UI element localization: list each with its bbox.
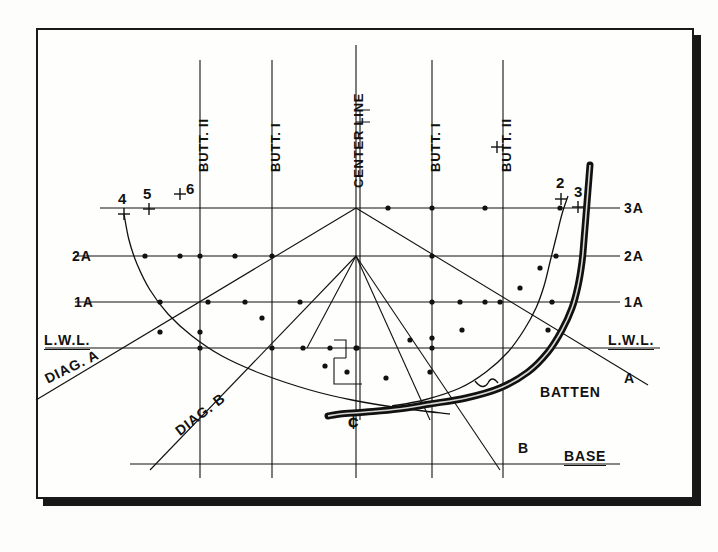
offset-point (459, 327, 464, 332)
waterline-label-2a-right: 2A (624, 248, 644, 264)
diagonal-b-end-label: B (518, 440, 529, 456)
waterline-label-lwl-left: L.W.L. (44, 332, 90, 350)
station-number-3: 3 (574, 183, 583, 200)
butt2-left-label: BUTT. II (196, 118, 211, 172)
station-curve (124, 214, 450, 414)
batten-strip (328, 165, 590, 416)
diagonal-DIAG. C right (356, 256, 430, 420)
offset-point (457, 299, 462, 304)
offset-point (327, 345, 332, 350)
station-number-2: 2 (556, 174, 565, 191)
offset-point (259, 315, 264, 320)
offset-point (482, 205, 487, 210)
lines-plan-svg (0, 0, 718, 552)
offset-point (344, 369, 349, 374)
offset-point (429, 345, 434, 350)
offset-point (269, 253, 274, 258)
offset-point (232, 253, 237, 258)
butt1-right-label: BUTT. I (428, 122, 443, 172)
drawing-canvas: BUTT. II BUTT. I CENTER LINE BUTT. I BUT… (0, 0, 718, 552)
offset-point (300, 345, 305, 350)
station-number-6: 6 (186, 180, 195, 197)
centerline-symbol: ¢ (348, 412, 360, 434)
offset-point (517, 285, 522, 290)
waterline-label-1a-right: 1A (624, 294, 644, 310)
diagonal-a-end-label: A (624, 370, 635, 386)
batten-leader-line (475, 379, 498, 387)
offset-point (197, 345, 202, 350)
offset-point (553, 253, 558, 258)
offset-point-marker-group (142, 205, 562, 380)
waterline-label-2a-left: 2A (72, 248, 92, 264)
offset-point (354, 345, 359, 350)
station-number-5: 5 (143, 185, 152, 202)
offset-point (537, 265, 542, 270)
batten-label: BATTEN (540, 384, 601, 400)
offset-point (385, 205, 390, 210)
butt2-right-label: BUTT. II (499, 118, 514, 172)
offset-point (197, 329, 202, 334)
offset-point (322, 363, 327, 368)
waterline-label-lwl-right: L.W.L. (608, 332, 654, 350)
offset-point (407, 337, 412, 342)
station-curve (392, 196, 568, 406)
batten-body (328, 165, 590, 416)
offset-point (482, 299, 487, 304)
batten-highlight (328, 165, 590, 416)
offset-point (197, 253, 202, 258)
station-number-4: 4 (118, 190, 127, 207)
offset-point (177, 253, 182, 258)
offset-point (157, 329, 162, 334)
offset-point (142, 253, 147, 258)
offset-point (383, 375, 388, 380)
waterline-label-1a-left: 1A (74, 294, 94, 310)
center-line-label: CENTER LINE (351, 93, 366, 188)
offset-point (429, 335, 434, 340)
offset-point (497, 299, 502, 304)
offset-point (429, 299, 434, 304)
offset-point (545, 327, 550, 332)
offset-point (269, 345, 274, 350)
diagonal-DIAG. B right (356, 256, 500, 470)
offset-point (157, 299, 162, 304)
offset-point (297, 299, 302, 304)
offset-point (429, 253, 434, 258)
offset-point (242, 299, 247, 304)
offset-point (557, 205, 562, 210)
station-curve-group (124, 196, 568, 414)
offset-point (429, 205, 434, 210)
butt1-left-label: BUTT. I (268, 122, 283, 172)
offset-point (205, 299, 210, 304)
offset-point (549, 299, 554, 304)
offset-point (427, 369, 432, 374)
waterline-label-3a-right: 3A (624, 200, 644, 216)
base-line-label: BASE (564, 448, 606, 466)
